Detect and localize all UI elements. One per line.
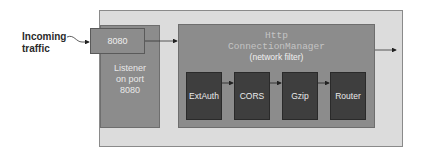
arrows-layer (0, 0, 424, 153)
incoming-arrow-icon (67, 36, 89, 42)
